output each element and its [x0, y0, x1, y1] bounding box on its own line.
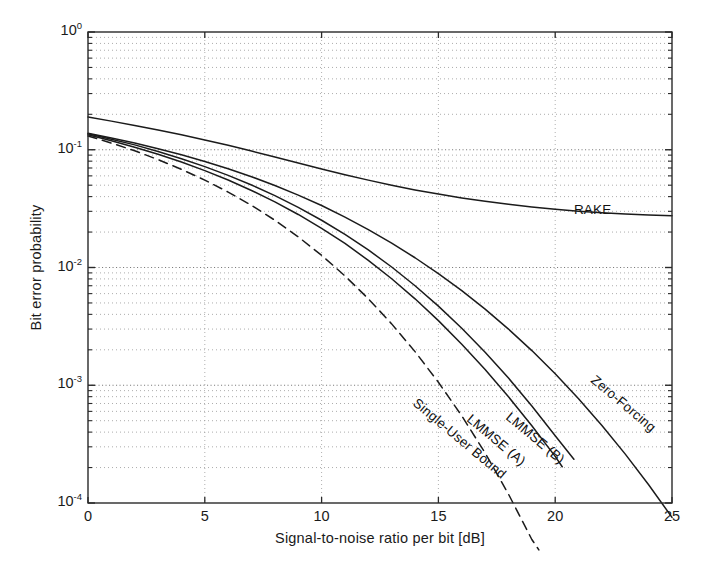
series-line: [88, 136, 539, 550]
series-line: [88, 133, 672, 517]
series-line: [88, 135, 562, 467]
series-line: [88, 134, 574, 460]
chart-figure: Bit error probability Signal-to-noise ra…: [0, 0, 714, 570]
plot-canvas: [0, 0, 714, 570]
